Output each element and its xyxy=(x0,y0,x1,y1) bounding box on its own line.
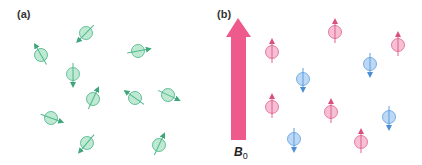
spin-down-icon xyxy=(383,106,396,128)
random-spin-icon xyxy=(38,108,63,128)
spin-up-icon xyxy=(325,101,338,123)
spin-up-icon xyxy=(266,96,279,118)
random-spin-icon xyxy=(75,130,99,155)
random-spin-icon xyxy=(74,21,99,46)
random-spin-icon xyxy=(122,86,147,109)
random-spin-icon xyxy=(30,42,52,68)
b0-field-arrow-icon xyxy=(226,18,251,140)
spin-up-icon xyxy=(266,41,279,63)
spin-down-icon xyxy=(297,68,310,90)
spin-diagram xyxy=(0,0,422,165)
spin-up-icon xyxy=(392,34,405,56)
b0-field-label: B0 xyxy=(234,145,248,161)
aligned-spins-group xyxy=(266,21,405,153)
spin-up-icon xyxy=(355,131,368,153)
random-spin-icon xyxy=(148,132,169,157)
b0-symbol: B xyxy=(234,145,243,159)
spin-down-icon xyxy=(288,128,301,150)
spin-down-icon xyxy=(364,53,377,75)
random-spin-icon xyxy=(126,43,150,60)
b0-subscript: 0 xyxy=(243,151,248,161)
random-spin-icon xyxy=(82,86,103,111)
random-spin-icon xyxy=(155,84,180,105)
spin-up-icon xyxy=(329,21,342,43)
random-spins-group xyxy=(30,21,181,158)
random-spin-icon xyxy=(67,63,80,85)
